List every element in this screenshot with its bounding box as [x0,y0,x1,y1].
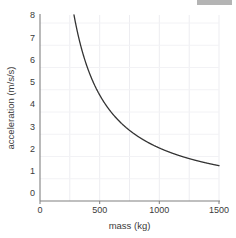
y-tick-label: 1 [30,166,35,176]
y-tick-label: 6 [30,55,35,65]
x-tick-label: 500 [92,205,107,215]
y-axis-title: acceleration (m/s/s) [5,67,16,150]
x-tick-label: 1000 [149,205,169,215]
x-tick-label: 1500 [209,205,229,215]
line-chart: 8 7 6 5 4 3 2 1 0 0 500 1000 1500 mass (… [0,0,236,238]
y-tick-labels: 8 7 6 5 4 3 2 1 0 [30,10,35,198]
chart-figure: 8 7 6 5 4 3 2 1 0 0 500 1000 1500 mass (… [0,0,236,238]
x-tick-labels: 0 500 1000 1500 [37,205,229,215]
y-tick-label: 2 [30,144,35,154]
y-tick-label: 5 [30,77,35,87]
y-tick-label: 8 [30,10,35,20]
y-tick-label: 0 [30,188,35,198]
x-axis-title: mass (kg) [109,220,151,231]
x-tick-label: 0 [37,205,42,215]
y-tick-label: 7 [30,33,35,43]
y-tick-label: 4 [30,99,35,109]
y-tick-label: 3 [30,122,35,132]
